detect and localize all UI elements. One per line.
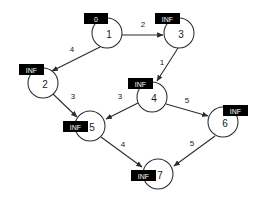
edge-line <box>174 136 215 166</box>
node-id-label: 3 <box>178 29 184 40</box>
edge-5-to-7: 4 <box>101 137 142 167</box>
edge-weight-label: 3 <box>71 92 76 101</box>
distance-badge-node-1: 0 <box>84 13 108 24</box>
edge-weight-label: 5 <box>185 96 190 105</box>
distance-badge-text: INF <box>70 124 81 131</box>
node-id-label: 2 <box>42 79 48 90</box>
distance-badge-node-4: INF <box>128 78 153 89</box>
edge-weight-label: 3 <box>118 92 123 101</box>
edge-line <box>52 47 100 71</box>
node-id-label: 1 <box>106 29 112 40</box>
edge-weight-label: 4 <box>70 45 75 54</box>
distance-badge-text: INF <box>26 67 37 74</box>
edge-4-to-5: 3 <box>106 92 138 120</box>
edge-2-to-5: 3 <box>53 92 77 118</box>
distance-badge-node-7: INF <box>131 170 156 181</box>
distance-badge-text: INF <box>230 108 241 115</box>
distance-badge-node-3: INF <box>155 13 180 24</box>
graph-svg: 24133545 1324567 0INFINFINFINFINFINF <box>0 0 266 201</box>
distance-badge-text: INF <box>162 16 173 23</box>
edge-weight-label: 1 <box>160 58 165 67</box>
edge-weight-label: 2 <box>141 20 146 29</box>
distance-badge-text: INF <box>138 173 149 180</box>
distance-badge-node-2: INF <box>19 64 44 75</box>
edge-1-to-2: 4 <box>52 45 100 72</box>
edge-4-to-6: 5 <box>166 96 208 117</box>
distance-badge-node-6: INF <box>223 105 248 116</box>
distance-labels-layer: 0INFINFINFINFINFINF <box>19 13 248 181</box>
node-id-label: 6 <box>222 118 228 129</box>
edge-6-to-7: 5 <box>174 136 215 166</box>
edge-weight-label: 4 <box>121 140 126 149</box>
distance-badge-text: INF <box>135 81 146 88</box>
node-id-label: 7 <box>157 170 163 181</box>
edge-line <box>166 104 208 116</box>
graph-diagram-canvas: 24133545 1324567 0INFINFINFINFINFINF <box>0 0 266 201</box>
distance-badge-node-5: INF <box>63 121 88 132</box>
edge-weight-label: 5 <box>190 139 195 148</box>
edge-3-to-4: 1 <box>157 48 178 81</box>
node-id-label: 4 <box>151 93 157 104</box>
edge-line <box>106 103 138 119</box>
node-id-label: 5 <box>89 122 95 133</box>
distance-badge-text: 0 <box>94 16 98 23</box>
nodes-layer: 1324567 <box>28 18 238 189</box>
